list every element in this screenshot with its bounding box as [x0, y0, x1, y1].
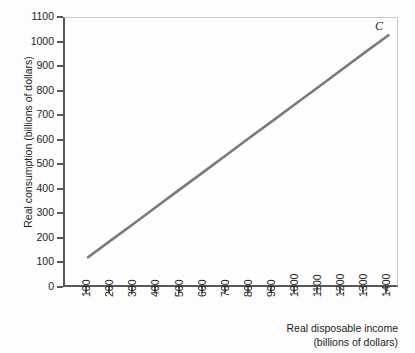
y-tick-label: 400 [36, 182, 54, 195]
x-tick-label: 600 [196, 279, 208, 297]
y-tick-label: 0 [48, 280, 54, 293]
x-tick-label: 700 [219, 279, 231, 297]
x-tick-label: 300 [126, 279, 138, 297]
x-tick-label: 900 [265, 279, 277, 297]
x-tick-label: 100 [80, 279, 92, 297]
y-tick-label: 800 [36, 84, 54, 97]
curve-label-c: C [375, 19, 383, 34]
y-tick-label: 900 [36, 59, 54, 72]
consumption-line [88, 35, 388, 257]
plot-area [63, 17, 398, 287]
x-axis-title-line2: (billions of dollars) [180, 336, 398, 350]
y-tick-label: 300 [36, 206, 54, 219]
y-tick-label: 700 [36, 108, 54, 121]
x-tick-label: 1000 [288, 274, 300, 297]
y-tick-label: 1000 [31, 35, 54, 48]
x-tick-label: 400 [149, 279, 161, 297]
x-tick-label: 500 [173, 279, 185, 297]
x-tick-label: 200 [103, 279, 115, 297]
x-axis-title: Real disposable income (billions of doll… [180, 322, 398, 349]
x-tick-label: 1100 [311, 274, 323, 297]
y-tick-label: 600 [36, 133, 54, 146]
x-tick-label: 1300 [357, 274, 369, 297]
y-tick-label: 200 [36, 231, 54, 244]
y-tick-label: 500 [36, 157, 54, 170]
x-axis-title-line1: Real disposable income [180, 322, 398, 336]
x-tick-label: 1400 [380, 274, 392, 297]
y-tick-label: 1100 [31, 10, 54, 23]
x-tick-label: 800 [242, 279, 254, 297]
consumption-line-svg [65, 18, 400, 288]
y-axis: 010020030040050060070080090010001100 [0, 17, 63, 287]
y-tick-label: 100 [36, 255, 54, 268]
consumption-function-chart: Real consumption (billions of dollars) 0… [0, 0, 415, 353]
x-tick-label: 1200 [334, 274, 346, 297]
